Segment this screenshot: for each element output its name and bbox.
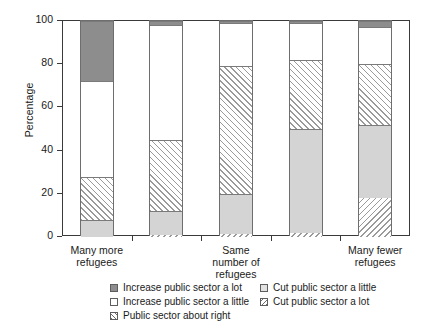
bar-segment[interactable] [359,64,391,124]
bar-segment[interactable] [81,177,113,220]
x-axis-category-label: Samenumber ofrefugees [176,244,296,281]
y-tick-label: 100 [13,13,53,25]
y-tick-label: 60 [13,99,53,111]
bar-segment[interactable] [359,21,391,27]
y-tick-mark [57,63,62,64]
legend-label: Cut public sector a little [273,282,376,293]
legend-swatch-icon [110,298,118,306]
x-axis-category-line: number of [176,256,296,268]
legend-swatch-icon [110,312,118,320]
y-tick-mark [57,150,62,151]
y-tick-mark [57,20,62,21]
legend-label: Increase public sector a lot [123,282,242,293]
y-tick-mark [57,236,62,237]
legend-label: Cut public sector a lot [273,296,369,307]
bar-segment[interactable] [150,140,182,211]
stacked-bar-chart: Percentage 020406080100 Many morerefugee… [0,0,429,333]
legend-item[interactable]: Cut public sector a lot [260,296,410,307]
bar-segment[interactable] [220,234,252,237]
bar-segment[interactable] [290,129,322,233]
legend-swatch-icon [260,284,268,292]
bar-segment[interactable] [290,60,322,129]
bar-segment[interactable] [290,23,322,60]
x-tick-mark [340,236,341,241]
y-tick-label: 20 [13,186,53,198]
bar-segment[interactable] [220,21,252,23]
bar-segment[interactable] [220,66,252,193]
y-tick-label: 40 [13,143,53,155]
legend-item[interactable]: Public sector about right [110,310,260,321]
bar-segment[interactable] [150,25,182,139]
legend-swatch-icon [260,298,268,306]
legend-item[interactable]: Increase public sector a little [110,296,260,307]
y-tick-label: 0 [13,229,53,241]
bar-segment[interactable] [150,235,182,237]
x-axis-category-label: Many fewerrefugees [315,244,429,268]
chart-legend: Increase public sector a lotCut public s… [0,282,429,324]
bar-segment[interactable] [290,21,322,23]
x-axis-category-line: refugees [176,268,296,280]
x-tick-mark [271,236,272,241]
bar-stack[interactable] [289,20,323,236]
bar-segment[interactable] [359,125,391,198]
legend-label: Increase public sector a little [123,296,249,307]
bar-segment[interactable] [81,21,113,81]
x-axis-category-line: refugees [315,256,429,268]
bar-segment[interactable] [359,27,391,64]
y-tick-mark [57,106,62,107]
bar-segment[interactable] [290,233,322,237]
x-axis-category-line: Many more [37,244,157,256]
bar-segment[interactable] [220,23,252,66]
bar-stack[interactable] [358,20,392,236]
bar-stack[interactable] [80,20,114,236]
y-tick-label: 80 [13,56,53,68]
legend-label: Public sector about right [123,310,230,321]
bar-segment[interactable] [81,220,113,237]
y-tick-mark [57,193,62,194]
x-axis-category-line: refugees [37,256,157,268]
legend-row: Public sector about right [0,310,429,324]
legend-item[interactable]: Increase public sector a lot [110,282,260,293]
legend-swatch-icon [110,284,118,292]
bar-segment[interactable] [220,194,252,234]
bar-stack[interactable] [219,20,253,236]
x-tick-mark [132,236,133,241]
x-axis-category-line: Same [176,244,296,256]
bar-segment[interactable] [359,198,391,237]
x-axis-category-label: Many morerefugees [37,244,157,268]
bar-segment[interactable] [81,81,113,176]
bar-stack[interactable] [149,20,183,236]
bar-segment[interactable] [150,211,182,235]
bar-segment[interactable] [150,21,182,25]
legend-item[interactable]: Cut public sector a little [260,282,410,293]
legend-row: Increase public sector a lotCut public s… [0,282,429,296]
x-tick-mark [201,236,202,241]
legend-row: Increase public sector a littleCut publi… [0,296,429,310]
x-axis-category-line: Many fewer [315,244,429,256]
